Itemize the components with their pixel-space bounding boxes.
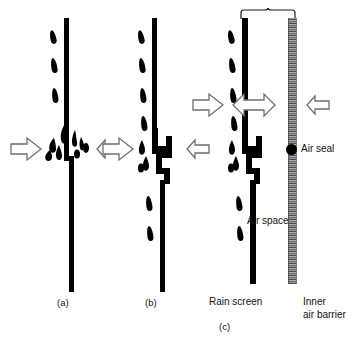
panel-a-wall-lower [69,158,74,292]
air-seal-dot-icon [286,144,297,155]
panel-c-rain-screen-upper [242,18,248,140]
panel-c-arrow-left [306,94,330,116]
water-drop-icon [228,58,237,74]
water-drop-icon [146,226,154,242]
inner-air-barrier-line2: air barrier [303,309,346,320]
water-drop-icon [236,226,244,242]
panel-b-wall-upper [152,18,157,140]
water-drop-icon [51,88,59,104]
inner-air-barrier-line1: Inner [303,296,326,307]
water-drop-icon [138,58,147,74]
water-drop-icon [235,196,243,212]
panel-a-wall-upper [64,18,69,134]
panel-c-arrow-right [192,92,224,118]
panel-c-arrow-double [232,92,276,118]
rain-screen-label: Rain screen [209,296,262,309]
panel-b-arrow-right [102,136,134,162]
water-drop-icon [145,196,153,212]
panel-a-arrow-right [10,136,42,162]
air-seal-label: Air seal [301,143,334,156]
inner-air-barrier-label: Inner air barrier [303,296,346,321]
water-drop-icon [50,58,59,74]
water-drop-icon [227,30,236,45]
panel-c-caption: (c) [219,321,230,333]
rain-screen-figure: (a) (b) [0,0,356,346]
panel-c-rain-screen-lower [250,180,256,284]
water-drop-icon [137,30,146,45]
panel-b-caption: (b) [145,297,157,309]
water-drop-icon [139,88,147,104]
panel-a-caption: (a) [57,297,69,309]
panel-b-wall-lower [160,180,165,292]
panel-c-labyrinth-joint [226,128,272,184]
panel-b-labyrinth-joint [136,128,182,184]
air-space-label: Air space [247,215,289,228]
water-drop-icon [49,30,58,45]
panel-b-arrow-left [186,138,210,160]
